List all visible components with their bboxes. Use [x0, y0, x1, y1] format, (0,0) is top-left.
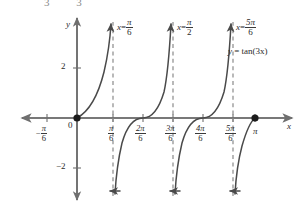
function-lhs: y [228, 47, 232, 56]
asymptote-label-pi-over-6: x=π6 [117, 18, 133, 37]
point-pi [251, 114, 258, 121]
x-tick-four-pi-over-6: 4π6 [195, 124, 206, 142]
x-tick-five-pi-over-6: 5π6 [225, 124, 236, 142]
numerator: 3π [165, 124, 176, 133]
asymptote-label-5pi-over-6: x=5π6 [236, 18, 256, 37]
x-tick-three-pi-over-6: 3π6 [165, 124, 176, 142]
function-equals: = [234, 47, 239, 56]
y-tick-2: 2 [61, 62, 66, 71]
tangent-graph-figure: 3 3 [0, 0, 301, 210]
origin-label: 0 [68, 121, 73, 130]
y-tick-neg2: −2 [56, 162, 66, 171]
point-origin [73, 114, 80, 121]
denominator: 6 [195, 133, 206, 143]
tan-branch-4 [235, 118, 255, 194]
denominator: 6 [225, 133, 236, 143]
x-tick-two-pi-over-6: 2π6 [135, 124, 146, 142]
denominator: 2 [186, 27, 193, 37]
x-tick-pi: π [253, 127, 258, 136]
denominator: 6 [108, 133, 114, 143]
numerator: 5π [245, 18, 256, 27]
x-tick-pi-over-6: π6 [108, 124, 114, 142]
asymptote-label-pi-over-2: x=π2 [177, 18, 193, 37]
numerator: 5π [225, 124, 236, 133]
tan-branch-2 [115, 24, 171, 194]
x-tick-neg-pi-over-6: −π6 [36, 124, 47, 142]
numerator: π [108, 124, 114, 133]
numerator: π [186, 18, 193, 27]
numerator: 4π [195, 124, 206, 133]
denominator: 6 [126, 27, 133, 37]
x-axis-label: x [287, 122, 291, 131]
tan-branch-1 [77, 24, 111, 118]
numerator: π [41, 124, 47, 133]
y-axis-label: y [66, 20, 70, 29]
denominator: 6 [245, 27, 256, 37]
numerator: π [126, 18, 133, 27]
function-label: y = tan(3x) [228, 47, 268, 56]
tan-branch-3 [175, 24, 231, 194]
denominator: 6 [41, 133, 47, 143]
denominator: 6 [135, 133, 146, 143]
function-rhs: tan(3x) [242, 47, 268, 56]
numerator: 2π [135, 124, 146, 133]
denominator: 6 [165, 133, 176, 143]
